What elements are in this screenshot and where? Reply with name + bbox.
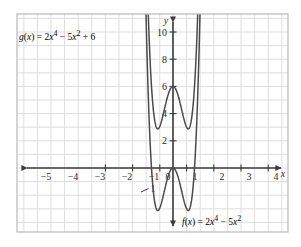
- f-close-paren: ): [192, 217, 195, 227]
- y-tick-label-10: 10: [157, 27, 167, 38]
- x-tick-label-2: 2: [220, 171, 225, 182]
- x-tick-label-neg5: −5: [41, 171, 52, 182]
- g-term2-exp: 2: [76, 29, 80, 38]
- g-term1-exp: 4: [53, 29, 57, 38]
- x-tick-label-neg1: −1: [149, 171, 160, 182]
- function-label-f: f(x) = 2x4 − 5x2: [182, 211, 241, 229]
- g-equals: =: [37, 32, 42, 42]
- x-tick-label-neg3: −3: [95, 171, 106, 182]
- x-tick-label-3: 3: [247, 171, 252, 182]
- x-tick-label-4: 4: [274, 171, 279, 182]
- function-label-g-text: g(x) = 2x4 − 5x2 + 6: [19, 32, 95, 42]
- function-label-f-text: f(x) = 2x4 − 5x2: [182, 217, 241, 227]
- f-minus: −: [221, 217, 226, 227]
- g-constant: 6: [90, 32, 95, 42]
- g-plus: +: [83, 32, 88, 42]
- x-tick-label-neg4: −4: [68, 171, 79, 182]
- y-tick-label-2: 2: [162, 135, 167, 146]
- f-term2-exp: 2: [237, 214, 241, 223]
- f-term1-exp: 4: [214, 214, 218, 223]
- x-axis-name: x: [280, 168, 286, 179]
- x-tick-label-neg2: −2: [122, 171, 133, 182]
- y-tick-label-6: 6: [162, 81, 167, 92]
- f-equals: =: [198, 217, 203, 227]
- function-label-g: g(x) = 2x4 − 5x2 + 6: [17, 26, 97, 44]
- g-minus: −: [60, 32, 65, 42]
- y-tick-label-8: 8: [162, 54, 167, 65]
- graph-figure: −5 −4 −3 −2 −1 0 1 2 3 4 x 10 8 6 4 2 y …: [0, 0, 301, 247]
- y-axis-name: y: [163, 15, 169, 26]
- plot-background: [17, 14, 288, 232]
- g-close-paren: ): [31, 32, 34, 42]
